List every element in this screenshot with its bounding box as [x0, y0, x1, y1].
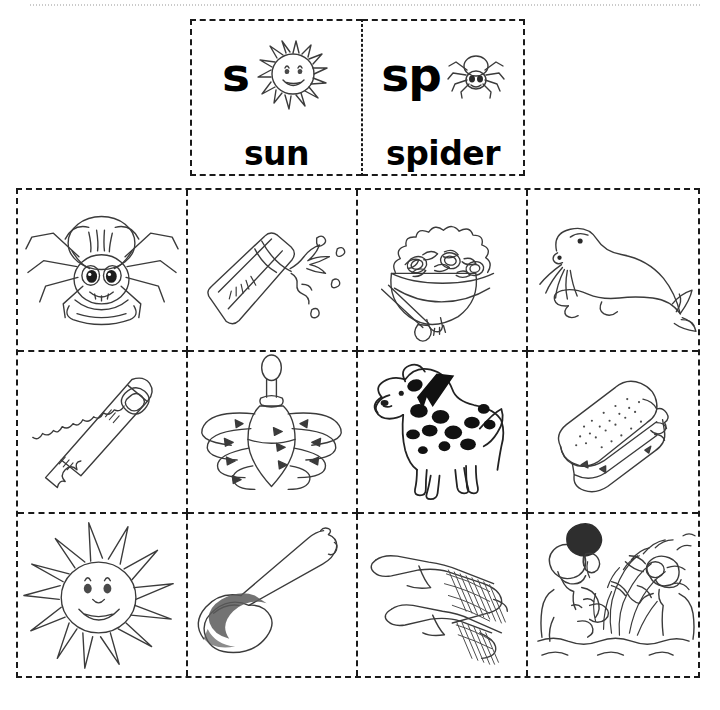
grid-cell-spill[interactable]: [188, 190, 358, 352]
key-letters-sp: sp: [381, 51, 441, 98]
spoon-icon: [188, 514, 356, 676]
grid-cell-spotted-dog[interactable]: [358, 352, 528, 514]
grid-cell-spoon[interactable]: [188, 514, 358, 676]
grid-cell-saw[interactable]: [18, 352, 188, 514]
key-word-sun: sun: [244, 137, 309, 170]
grid-cell-spider[interactable]: [18, 190, 188, 352]
seal-icon: [528, 190, 698, 350]
key-cell-s[interactable]: s: [190, 19, 362, 176]
grid-cell-splash[interactable]: [528, 514, 698, 676]
spider-icon: [18, 190, 186, 350]
socks-icon: [358, 514, 526, 676]
sun-icon: [18, 514, 186, 676]
worksheet-page: s: [0, 0, 720, 710]
key-word-spider: spider: [386, 137, 500, 170]
sandwich-icon: [528, 352, 698, 512]
spider-icon: [447, 48, 505, 100]
spotted-dog-icon: [358, 352, 526, 512]
salad-icon: [358, 190, 526, 350]
grid-cell-spinning-top[interactable]: [188, 352, 358, 514]
key-letters-s: s: [222, 51, 249, 98]
spill-icon: [188, 190, 356, 350]
splash-icon: [528, 514, 698, 676]
grid-cell-sandwich[interactable]: [528, 352, 698, 514]
sun-icon: [255, 37, 331, 111]
key-top-row-s: s: [192, 37, 361, 111]
grid-cell-seal[interactable]: [528, 190, 698, 352]
key-cell-sp[interactable]: sp: [362, 19, 525, 176]
key-top-row-sp: sp: [363, 37, 523, 111]
saw-icon: [18, 352, 186, 512]
picture-grid: [16, 188, 700, 678]
grid-cell-salad[interactable]: [358, 190, 528, 352]
scan-artifact-line: [30, 4, 702, 6]
sound-key-header: s: [190, 19, 525, 176]
spinning-top-icon: [188, 352, 356, 512]
grid-cell-socks[interactable]: [358, 514, 528, 676]
grid-cell-sun[interactable]: [18, 514, 188, 676]
